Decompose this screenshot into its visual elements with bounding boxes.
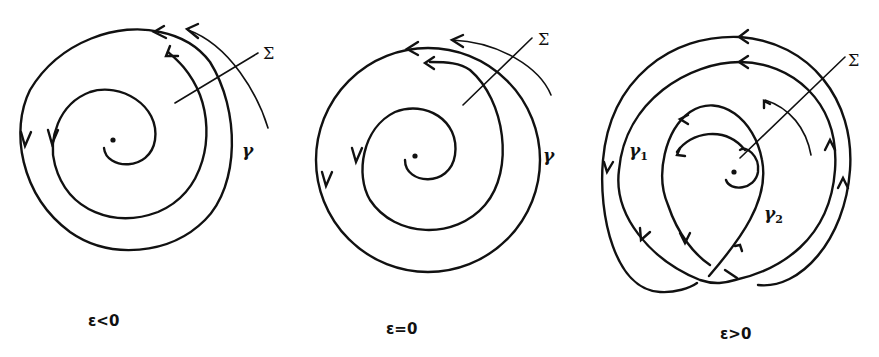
trajectory-spiral-inner (53, 52, 207, 218)
subscript: 2 (775, 213, 783, 226)
flow-arrow (604, 162, 613, 172)
trajectory-inner-arc (677, 134, 745, 152)
gamma-label: γ (242, 140, 253, 160)
gamma-symbol: γ (629, 140, 640, 160)
phase-portrait-figure: Σ γ Σ γ Σ γ1 γ2 ε<0 ε=0 ε>0 (0, 0, 879, 357)
flow-arrow (21, 132, 31, 146)
flow-arrow (680, 115, 688, 124)
diagram-canvas (0, 0, 879, 357)
orbit-gamma-arc (188, 30, 268, 128)
panel-eps-negative (20, 24, 268, 250)
trajectory-spiral-outer (20, 29, 232, 250)
orbit-gamma-2 (662, 105, 763, 276)
flow-arrow (322, 172, 332, 186)
gamma-symbol: γ (764, 203, 775, 223)
cross-section-sigma (175, 53, 258, 103)
trajectory-inner-spiral (726, 149, 758, 188)
gamma-label: γ (543, 145, 554, 165)
gamma-1-label: γ1 (629, 140, 648, 163)
sigma-label: Σ (263, 44, 274, 63)
panel-eps-zero (316, 35, 551, 272)
equilibrium-point (110, 137, 115, 142)
periodic-orbit-gamma (316, 48, 540, 272)
flow-arrow (735, 245, 742, 251)
subscript: 1 (640, 150, 648, 163)
flow-arrow (838, 178, 848, 188)
flow-arrow (677, 148, 685, 156)
equilibrium-point (731, 169, 736, 174)
gamma-2-label: γ2 (764, 203, 783, 226)
caption-eps-zero: ε=0 (386, 320, 417, 338)
sigma-label: Σ (848, 51, 859, 70)
flow-arrow (352, 148, 362, 162)
equilibrium-point (412, 153, 417, 158)
flow-segment (725, 270, 737, 278)
caption-eps-negative: ε<0 (88, 312, 119, 330)
orbit-gamma-1 (618, 62, 835, 283)
flow-arrow (640, 228, 650, 240)
caption-eps-positive: ε>0 (720, 325, 751, 343)
sigma-label: Σ (538, 30, 549, 49)
